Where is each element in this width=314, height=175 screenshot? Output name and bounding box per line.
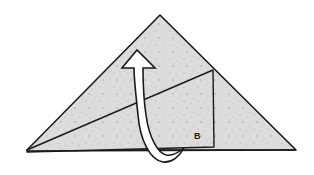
flap-label: B <box>194 131 201 141</box>
bottom-edge <box>27 150 296 151</box>
origami-diagram: B <box>0 0 314 175</box>
